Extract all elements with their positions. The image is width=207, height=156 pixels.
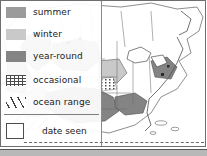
- range-map-figure: summer winter year-round occasional ocea…: [0, 0, 207, 156]
- legend-panel: summer winter year-round occasional ocea…: [1, 1, 102, 146]
- summer-swatch: [6, 7, 26, 18]
- legend-label-summer: summer: [33, 7, 71, 18]
- legend-item-occasional: occasional: [6, 74, 81, 87]
- legend-label-winter: winter: [33, 29, 62, 40]
- legend-label-year-round: year-round: [33, 51, 83, 62]
- occasional-swatch: [6, 75, 26, 86]
- legend-item-year-round: year-round: [6, 50, 83, 63]
- legend-items: summer winter year-round occasional ocea…: [1, 1, 102, 113]
- legend-item-summer: summer: [6, 6, 71, 19]
- legend-label-ocean-range: ocean range: [33, 97, 90, 108]
- bottom-dashed-rule: [24, 142, 204, 143]
- date-seen-box[interactable]: [6, 123, 24, 139]
- year-round-swatch: [6, 51, 26, 62]
- legend-label-occasional: occasional: [33, 75, 81, 86]
- legend-item-ocean-range: ocean range: [6, 96, 90, 109]
- page-base-bar: [0, 149, 207, 156]
- ocean-range-swatch: [6, 97, 26, 108]
- date-seen-label: date seen: [42, 126, 87, 136]
- legend-item-winter: winter: [6, 28, 62, 41]
- legend-divider: [4, 114, 99, 115]
- date-seen-row: date seen: [6, 121, 100, 141]
- winter-swatch: [6, 29, 26, 40]
